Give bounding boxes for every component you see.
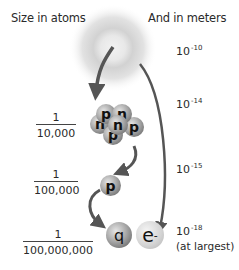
fraction-numerator: 1 — [23, 228, 93, 241]
meters-base: 10 — [176, 98, 190, 111]
arrow-nucleus-to-proton — [120, 146, 136, 172]
fraction-numerator: 1 — [34, 168, 78, 181]
arrow-atom-to-electron — [140, 64, 165, 228]
nucleon-neutron: n — [108, 115, 128, 135]
meters-quark: 10-18 — [176, 224, 202, 238]
meters-exponent: -14 — [191, 97, 202, 105]
arrow-proton-to-quark — [90, 190, 100, 224]
fraction-nucleus: 1 10,000 — [36, 111, 76, 140]
meters-exponent: -15 — [191, 162, 202, 170]
header-size-in-atoms: Size in atoms — [11, 11, 86, 25]
electron-ball: e- — [136, 221, 164, 249]
fraction-denominator: 100,000 — [34, 181, 78, 197]
meters-proton: 10-15 — [176, 162, 202, 176]
fraction-numerator: 1 — [36, 111, 76, 124]
fraction-quark: 1 100,000,000 — [23, 228, 93, 257]
meters-atom: 10-10 — [176, 44, 202, 58]
proton-ball: p — [100, 175, 121, 196]
quark-ball: q — [106, 222, 132, 248]
fraction-proton: 1 100,000 — [34, 168, 78, 197]
electron-charge: - — [154, 229, 158, 242]
meters-exponent: -10 — [191, 44, 202, 52]
electron-label: e — [142, 224, 154, 246]
meters-base: 10 — [176, 45, 190, 58]
meters-nucleus: 10-14 — [176, 97, 202, 111]
fraction-denominator: 100,000,000 — [23, 241, 93, 257]
fraction-denominator: 10,000 — [36, 124, 76, 140]
header-in-meters: And in meters — [148, 11, 226, 25]
meters-base: 10 — [176, 225, 190, 238]
meters-exponent: -18 — [191, 224, 202, 232]
meters-base: 10 — [176, 163, 190, 176]
meters-note: (at largest) — [176, 240, 234, 252]
